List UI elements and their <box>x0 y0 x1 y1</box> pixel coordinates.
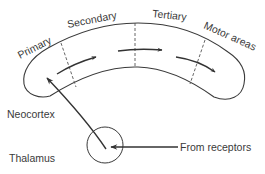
arrow-secondary-to-tertiary <box>118 49 162 51</box>
cortex-flow-diagram: Primary Secondary Tertiary Motor areas N… <box>0 0 265 174</box>
label-from-receptors: From receptors <box>180 141 251 153</box>
label-motor-areas: Motor areas <box>202 19 258 53</box>
arrow-thalamus-to-primary <box>47 78 106 149</box>
arrow-tertiary-to-motor <box>176 57 215 72</box>
label-secondary: Secondary <box>66 8 118 30</box>
label-neocortex: Neocortex <box>7 108 56 120</box>
thalamus-circle <box>87 127 123 163</box>
arrow-primary-to-secondary <box>57 57 96 74</box>
label-primary: Primary <box>15 33 53 60</box>
label-tertiary: Tertiary <box>152 7 188 23</box>
label-thalamus: Thalamus <box>9 152 55 164</box>
